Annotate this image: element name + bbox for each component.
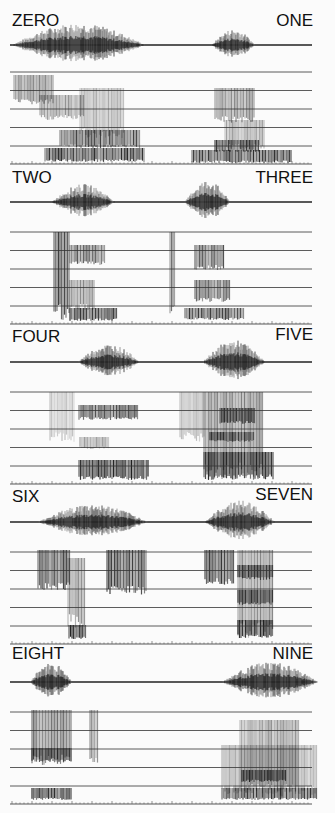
label-three: THREE bbox=[255, 169, 313, 186]
label-four: FOUR bbox=[12, 328, 60, 345]
panel-zero-one: ZERO ONE bbox=[0, 0, 335, 160]
panel-two-three: TWO THREE bbox=[0, 160, 335, 320]
label-eight: EIGHT bbox=[12, 645, 64, 662]
panel-eight-nine: EIGHT NINE bbox=[0, 640, 335, 813]
label-nine: NINE bbox=[272, 645, 313, 662]
label-five: FIVE bbox=[275, 326, 313, 343]
label-seven: SEVEN bbox=[255, 486, 313, 503]
label-zero: ZERO bbox=[12, 12, 59, 29]
label-six: SIX bbox=[12, 488, 39, 505]
panel-four-five: FOUR FIVE bbox=[0, 320, 335, 480]
label-two: TWO bbox=[12, 169, 52, 186]
label-one: ONE bbox=[276, 12, 313, 29]
panel-six-seven: SIX SEVEN bbox=[0, 480, 335, 640]
